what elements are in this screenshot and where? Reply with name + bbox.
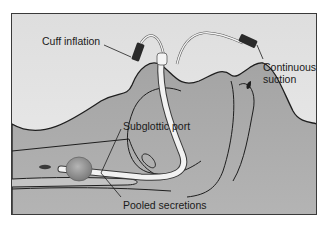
tube-cuff [66,157,92,181]
cuff-inflation-connector [131,42,145,62]
label-cuff-inflation: Cuff inflation [42,35,100,47]
suction-line [177,33,243,64]
leader-continuous-suction [257,45,263,59]
leader-cuff-inflation [104,45,131,57]
label-continuous-suction-line1: Continuous [263,61,316,73]
tube-tip [39,165,51,169]
label-subglottic-port: Subglottic port [123,120,190,132]
label-pooled-secretions: Pooled secretions [123,199,206,211]
tube-connector [157,53,167,65]
suction-connector [238,34,258,49]
label-continuous-suction-line2: suction [263,73,296,85]
